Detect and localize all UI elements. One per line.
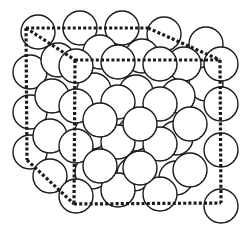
lattice-figure [0, 0, 249, 235]
atom-sphere [83, 149, 117, 183]
atom-sphere [143, 47, 177, 81]
atom-sphere [123, 151, 157, 185]
atom-sphere [204, 189, 238, 223]
layer-front [59, 45, 238, 223]
atom-sphere [59, 179, 93, 213]
atom-sphere [173, 107, 207, 141]
cube-edge-front-bottom [74, 203, 221, 204]
lattice-diagram [0, 0, 249, 235]
spheres [13, 11, 238, 223]
atom-sphere [83, 103, 117, 137]
atom-sphere [123, 107, 157, 141]
cube-edge-front-right [220, 60, 221, 203]
atom-sphere [173, 153, 207, 187]
atom-sphere [101, 45, 135, 79]
